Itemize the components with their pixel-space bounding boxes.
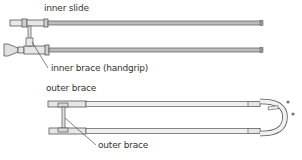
trombone-slide-diagram [0,0,302,160]
inner-brace-handgrip [26,26,33,46]
inner-slide-bottom-tube [4,44,263,56]
label-outer-brace-pointer: outer brace [98,140,148,150]
label-outer-brace-top: outer brace [46,83,96,93]
slide-crook-u-bend [260,100,295,133]
outer-brace [58,103,68,132]
outer-slide-top-tube [48,101,260,107]
inner-slide-top-tube [10,19,263,27]
outer-slide-bottom-tube [49,128,260,134]
label-inner-brace-handgrip: inner brace (handgrip) [51,63,148,73]
label-inner-slide: inner slide [44,3,89,13]
